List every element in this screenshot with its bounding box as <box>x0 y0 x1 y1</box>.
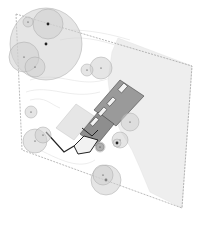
tree-trunk-icon <box>129 121 130 122</box>
tree-trunk-icon <box>42 134 43 135</box>
tree-trunk-icon <box>45 43 48 46</box>
tree-trunk-icon <box>102 174 103 175</box>
tree-trunk-icon <box>100 67 101 68</box>
tree-trunk-icon <box>47 23 50 26</box>
tree-trunk-icon <box>34 66 35 67</box>
tree-trunk-icon <box>99 146 100 147</box>
tree-trunk-icon <box>34 140 35 141</box>
tree-trunk-icon <box>86 69 87 70</box>
tree-trunk-icon <box>27 21 28 22</box>
site-plan <box>0 0 212 225</box>
tree-trunk-icon <box>116 142 119 145</box>
tree-trunk-icon <box>23 56 24 57</box>
south-pavilion <box>74 136 98 154</box>
tree-trunk-icon <box>30 111 31 112</box>
